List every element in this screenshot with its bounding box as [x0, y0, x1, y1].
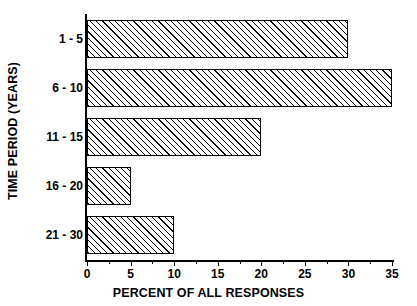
x-axis-tick-label: 20 [255, 267, 268, 281]
bar [87, 118, 261, 156]
bar [87, 69, 392, 107]
x-axis-tick-label: 15 [211, 267, 224, 281]
x-axis-minor-tick-mark [327, 260, 328, 264]
y-axis-tick-label: 6 - 10 [29, 81, 83, 95]
y-axis-tick-label: 11 - 15 [29, 130, 83, 144]
bar [87, 216, 174, 254]
x-axis-title: PERCENT OF ALL RESPONSES [0, 286, 417, 300]
x-axis-tick-mark [131, 260, 132, 266]
x-axis-tick-label: 0 [84, 267, 91, 281]
x-axis-tick-mark [348, 260, 349, 266]
x-axis-minor-tick-mark [240, 260, 241, 264]
x-axis-tick-mark [305, 260, 306, 266]
x-axis-tick-label: 25 [298, 267, 311, 281]
y-axis-title: TIME PERIOD (YEARS) [0, 0, 26, 262]
x-axis-minor-tick-mark [196, 260, 197, 264]
y-axis-tick-labels: 1 - 56 - 1011 - 1516 - 2021 - 30 [26, 0, 83, 306]
x-axis-minor-tick-mark [283, 260, 284, 264]
x-axis-tick-mark [218, 260, 219, 266]
x-axis-minor-tick-mark [152, 260, 153, 264]
x-axis-tick-mark [392, 260, 393, 266]
x-axis-tick-label: 35 [385, 267, 398, 281]
bar [87, 20, 348, 58]
x-axis-tick-label: 5 [127, 267, 134, 281]
bar-chart: TIME PERIOD (YEARS) 1 - 56 - 1011 - 1516… [0, 0, 417, 306]
x-axis-tick-mark [261, 260, 262, 266]
y-axis-tick-label: 1 - 5 [29, 32, 83, 46]
x-axis-tick-label: 30 [342, 267, 355, 281]
x-axis-tick-label: 10 [167, 267, 180, 281]
y-axis-tick-label: 16 - 20 [29, 179, 83, 193]
x-axis-tick-mark [174, 260, 175, 266]
y-axis-tick-label: 21 - 30 [29, 228, 83, 242]
bar [87, 167, 131, 205]
x-axis-tick-mark [87, 260, 88, 266]
x-axis-minor-tick-mark [370, 260, 371, 264]
x-axis-minor-tick-mark [109, 260, 110, 264]
plot-area [87, 14, 392, 260]
y-axis-title-text: TIME PERIOD (YEARS) [6, 62, 20, 200]
